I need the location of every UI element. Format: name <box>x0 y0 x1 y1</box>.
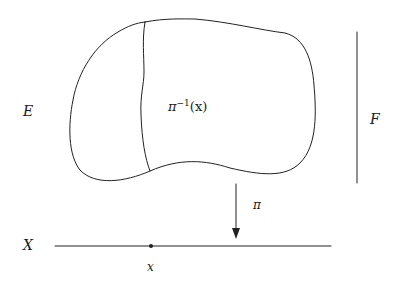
fiber-space-label: F <box>370 112 380 126</box>
base-point-dot <box>149 244 153 248</box>
fiber-label: π−1(x) <box>168 99 207 113</box>
fiber-bundle-diagram <box>0 0 402 285</box>
total-space-label: E <box>23 104 33 118</box>
arrowhead-icon <box>232 228 240 239</box>
fiber-label-exponent: −1 <box>177 98 190 108</box>
base-space-label: X <box>23 238 33 252</box>
fiber-curve <box>141 22 150 171</box>
fiber-label-symbol: π <box>168 99 177 114</box>
fiber-label-argument: (x) <box>190 99 207 114</box>
projection-label: π <box>253 199 261 211</box>
base-point-label: x <box>147 261 154 273</box>
